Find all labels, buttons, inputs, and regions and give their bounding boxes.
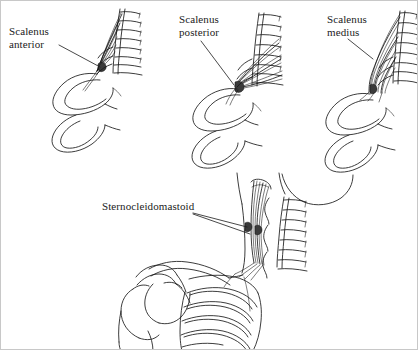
label-scalenus-anterior-line2: anterior: [9, 38, 49, 51]
panel-scalenus-anterior-drawing: [52, 9, 142, 152]
leader-line-scalenus-posterior: [201, 41, 234, 85]
label-scalenus-posterior-line1: Scalenus: [179, 13, 219, 25]
label-sternocleidomastoid-line1: Sternocleidomastoid: [102, 200, 194, 212]
label-scalenus-posterior-line2: posterior: [179, 26, 219, 39]
leader-line-sternocleidomastoid-b: [193, 214, 250, 234]
anatomy-figure: Scalenus anterior Scalenus posterior Sca…: [0, 0, 418, 350]
label-scalenus-medius-line2: medius: [327, 26, 367, 39]
leader-line-scalenus-anterior: [59, 45, 100, 67]
label-sternocleidomastoid: Sternocleidomastoid: [102, 200, 194, 213]
leader-line-scalenus-medius: [348, 39, 373, 59]
label-scalenus-anterior: Scalenus anterior: [9, 25, 49, 50]
anatomy-illustration-svg: [1, 1, 418, 350]
label-scalenus-medius-line1: Scalenus: [327, 13, 367, 25]
label-scalenus-posterior: Scalenus posterior: [179, 13, 219, 38]
leader-line-sternocleidomastoid-a: [193, 213, 247, 227]
label-scalenus-medius: Scalenus medius: [327, 13, 367, 38]
label-scalenus-anterior-line1: Scalenus: [9, 25, 49, 37]
